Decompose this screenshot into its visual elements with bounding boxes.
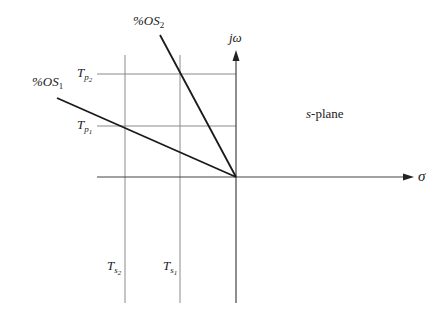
os1-label-sub: 1 — [59, 81, 64, 91]
ts2-label-subsub: 2 — [118, 269, 122, 277]
plane-label-rest: -plane — [311, 106, 343, 121]
os1-label: %OS1 — [32, 75, 63, 91]
ts1-label: Ts1 — [163, 259, 177, 277]
os1-line — [57, 98, 236, 177]
imaginary-axis-arrow-icon — [233, 50, 240, 61]
plane-label: s-plane — [306, 107, 344, 120]
os2-label-sub: 2 — [160, 20, 165, 30]
real-axis-label: σ — [418, 169, 425, 184]
ts1-label-subsub: 1 — [174, 269, 178, 277]
tp2-label: Tp2 — [77, 66, 92, 84]
ts2-label: Ts2 — [107, 259, 121, 277]
imaginary-axis-label: jω — [229, 31, 242, 44]
s-plane-diagram — [0, 0, 444, 321]
os2-label-prefix: %OS — [133, 13, 160, 28]
tp1-label: Tp1 — [77, 118, 92, 136]
os2-line — [160, 35, 236, 177]
tp1-label-subsub: 1 — [89, 128, 93, 136]
os2-label: %OS2 — [133, 14, 164, 30]
tp2-label-subsub: 2 — [89, 76, 93, 84]
os1-label-prefix: %OS — [32, 74, 59, 89]
real-axis-arrow-icon — [403, 174, 414, 181]
